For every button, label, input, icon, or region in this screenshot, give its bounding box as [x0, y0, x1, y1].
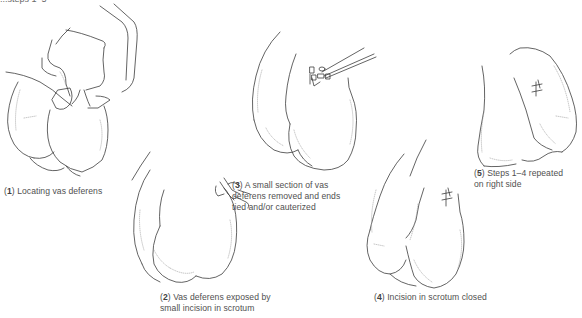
caption-line: Incision in scrotum closed: [387, 292, 487, 302]
step-4-caption: (4) Incision in scrotum closed: [374, 292, 487, 303]
step-5-caption: (5) Steps 1–4 repeated on right side: [474, 168, 563, 190]
caption-line: Locating vas deferens: [17, 186, 102, 196]
step-3-caption: (3) A small section of vas deferens remo…: [232, 180, 340, 213]
step-number: 3: [235, 180, 240, 190]
step-2-caption: (2) Vas deferens exposed by small incisi…: [160, 292, 271, 314]
caption-line: Vas deferens exposed by: [173, 292, 271, 302]
caption-line: deferens removed and ends: [232, 191, 340, 202]
caption-line: tied and/or cauterized: [232, 202, 340, 213]
sutured-incision-right-illustration: [470, 20, 582, 170]
step-number: 4: [377, 292, 382, 302]
step-number: 1: [7, 186, 12, 196]
step-1-caption: (1) Locating vas deferens: [4, 186, 102, 197]
step-5-figure: [470, 20, 582, 170]
caption-line: Steps 1–4 repeated: [487, 168, 563, 178]
caption-line: on right side: [474, 179, 563, 190]
step-number: 5: [477, 168, 482, 178]
step-number: 2: [163, 292, 168, 302]
caption-line: small incision in scrotum: [160, 303, 271, 314]
caption-line: A small section of vas: [245, 180, 329, 190]
